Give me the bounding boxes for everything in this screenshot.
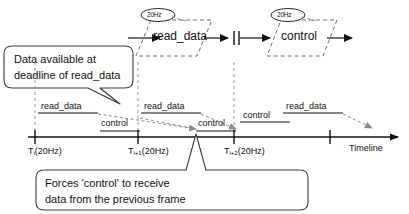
tick-label-ti-rate: (20Hz)	[35, 146, 62, 156]
diagram-canvas: 20Hz read_data 20Hz control Data availab…	[0, 0, 409, 214]
read-data-block-label: read_data	[153, 29, 207, 43]
dependency-arrow-3	[343, 114, 372, 128]
forces-control-callout-line-2: data from the previous frame	[45, 193, 186, 206]
task-label-control-3: control	[243, 110, 270, 120]
tick-label-ti2-rate: (20Hz)	[238, 146, 265, 156]
read-data-rate-tag-label: 20Hz	[147, 11, 161, 18]
control-block-label: control	[281, 29, 317, 43]
data-available-callout-line-2: deadline of read_data	[14, 69, 120, 82]
timeline-axis-label: Timeline	[349, 143, 383, 153]
tick-label-ti: Ti(20Hz)	[28, 146, 62, 156]
forces-control-callout-line-1: Forces 'control' to receive	[45, 177, 170, 190]
control-rate-tag-label: 20Hz	[277, 11, 291, 18]
tick-label-ti1-rate: (20Hz)	[142, 146, 169, 156]
task-label-control-2: control	[198, 118, 225, 128]
task-label-read-data-1: read_data	[41, 101, 82, 111]
tick-label-ti2-sub: i+2	[230, 150, 238, 156]
tick-label-ti2: Ti+2(20Hz)	[224, 146, 265, 156]
tick-label-ti1-sub: i+1	[134, 150, 142, 156]
tick-label-ti1: Ti+1(20Hz)	[128, 146, 169, 156]
delay-separator-icon	[234, 31, 239, 45]
task-label-control-1: control	[101, 118, 128, 128]
task-label-read-data-3: read_data	[286, 101, 327, 111]
data-available-callout-line-1: Data available at	[14, 53, 96, 66]
task-label-read-data-2: read_data	[144, 101, 185, 111]
